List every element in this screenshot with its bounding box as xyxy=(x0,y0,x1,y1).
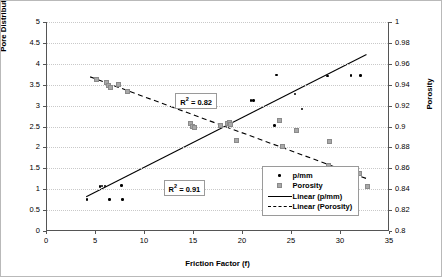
y-axis-right-tickmark xyxy=(389,189,392,190)
y-axis-right-tick: 0.86 xyxy=(395,164,421,172)
legend-dot-icon xyxy=(267,174,293,177)
data-point-porosity xyxy=(277,118,282,123)
data-point-porosity xyxy=(125,89,130,94)
y-axis-right-label: Porosity xyxy=(425,59,434,129)
y-axis-left-tickmark xyxy=(43,189,46,190)
legend-item-linear-porosity: Linear (Porosity) xyxy=(267,202,353,213)
data-point-porosity xyxy=(327,139,332,144)
y-axis-right-tickmark xyxy=(389,210,392,211)
legend-dashed-line-icon xyxy=(267,206,293,207)
r2-annotation-pmm: R2 = 0.91 xyxy=(164,180,206,196)
x-axis-tick: 30 xyxy=(330,237,350,245)
legend-item-pmm: p/mm xyxy=(267,170,353,181)
gridline xyxy=(47,64,388,65)
y-axis-left-label: Pore Distribution (p/mm) xyxy=(0,0,8,61)
data-point-porosity xyxy=(294,128,299,133)
legend-solid-line-icon xyxy=(267,196,293,197)
gridline xyxy=(47,43,388,44)
y-axis-left-tick: 0.5 xyxy=(16,206,40,214)
x-axis-tick: 0 xyxy=(36,237,56,245)
y-axis-left-tickmark xyxy=(43,147,46,148)
data-point-porosity xyxy=(280,144,285,149)
x-axis-tick: 20 xyxy=(232,237,252,245)
y-axis-right-tick: 0.94 xyxy=(395,81,421,89)
data-point-porosity xyxy=(94,77,99,82)
data-point-pmm xyxy=(350,74,353,77)
y-axis-left-tickmark xyxy=(43,64,46,65)
data-point-porosity xyxy=(218,123,223,128)
y-axis-right-tick: 0.92 xyxy=(395,102,421,110)
x-axis-tick: 35 xyxy=(379,237,399,245)
y-axis-left-tickmark xyxy=(43,22,46,23)
x-axis-tickmark xyxy=(144,231,145,234)
legend-label: Linear (p/mm) xyxy=(293,192,343,201)
gridline xyxy=(47,22,388,23)
y-axis-left-tick: 1.5 xyxy=(16,164,40,172)
y-axis-right-tickmark xyxy=(389,168,392,169)
legend-square-icon xyxy=(267,183,293,188)
gridline xyxy=(47,106,388,107)
y-axis-right-tickmark xyxy=(389,43,392,44)
x-axis-tickmark xyxy=(242,231,243,234)
y-axis-right-tick: 0.84 xyxy=(395,185,421,193)
x-axis-tickmark xyxy=(46,231,47,234)
data-point-pmm xyxy=(121,198,124,201)
data-point-pmm xyxy=(359,74,362,77)
y-axis-left-tick: 3.5 xyxy=(16,81,40,89)
y-axis-left-tick: 5 xyxy=(16,18,40,26)
gridline xyxy=(47,147,388,148)
y-axis-left-tickmark xyxy=(43,168,46,169)
y-axis-left-tick: 4.5 xyxy=(16,39,40,47)
y-axis-right-tick: 0.9 xyxy=(395,123,421,131)
y-axis-right-tickmark xyxy=(389,106,392,107)
y-axis-right-tickmark xyxy=(389,85,392,86)
x-axis-tick: 25 xyxy=(281,237,301,245)
x-axis-tick: 10 xyxy=(134,237,154,245)
data-point-pmm xyxy=(252,99,255,102)
x-axis-tickmark xyxy=(389,231,390,234)
y-axis-right-tickmark xyxy=(389,147,392,148)
data-point-porosity xyxy=(116,82,121,87)
data-point-pmm xyxy=(326,75,329,78)
y-axis-left-tick: 3 xyxy=(16,102,40,110)
y-axis-left-tickmark xyxy=(43,85,46,86)
legend-item-porosity: Porosity xyxy=(267,181,353,192)
y-axis-left-tick: 2 xyxy=(16,143,40,151)
y-axis-left-tick: 2.5 xyxy=(16,123,40,131)
y-axis-right-tickmark xyxy=(389,127,392,128)
x-axis-tick: 15 xyxy=(183,237,203,245)
chart-legend: p/mm Porosity Linear (p/mm) Linear (Poro… xyxy=(262,166,360,216)
data-point-porosity xyxy=(234,138,239,143)
gridline xyxy=(47,85,388,86)
x-axis-tickmark xyxy=(340,231,341,234)
y-axis-right-tick: 0.82 xyxy=(395,206,421,214)
data-point-pmm xyxy=(108,198,111,201)
y-axis-right-tickmark xyxy=(389,64,392,65)
y-axis-left-tickmark xyxy=(43,127,46,128)
y-axis-left-tickmark xyxy=(43,106,46,107)
data-point-porosity xyxy=(228,122,233,127)
data-point-pmm xyxy=(120,184,123,187)
x-axis-label: Friction Factor (f) xyxy=(46,259,389,268)
y-axis-right-tickmark xyxy=(389,22,392,23)
legend-item-linear-pmm: Linear (p/mm) xyxy=(267,191,353,202)
legend-label: Porosity xyxy=(293,181,323,190)
y-axis-left-tickmark xyxy=(43,43,46,44)
data-point-pmm xyxy=(273,124,276,127)
y-axis-right-tick: 0.8 xyxy=(395,227,421,235)
y-axis-right-tick: 1 xyxy=(395,18,421,26)
x-axis-tick: 5 xyxy=(85,237,105,245)
legend-label: Linear (Porosity) xyxy=(293,202,353,211)
y-axis-left-tick: 4 xyxy=(16,60,40,68)
data-point-porosity xyxy=(192,125,197,130)
x-axis-tickmark xyxy=(291,231,292,234)
x-axis-tickmark xyxy=(193,231,194,234)
y-axis-left-tick: 1 xyxy=(16,185,40,193)
y-axis-left-tickmark xyxy=(43,210,46,211)
chart-container: Pore Distribution (p/mm) Porosity Fricti… xyxy=(0,0,442,277)
data-point-porosity xyxy=(108,85,113,90)
data-point-porosity xyxy=(365,184,370,189)
y-axis-right-tick: 0.98 xyxy=(395,39,421,47)
x-axis-tickmark xyxy=(95,231,96,234)
y-axis-right-tick: 0.96 xyxy=(395,60,421,68)
